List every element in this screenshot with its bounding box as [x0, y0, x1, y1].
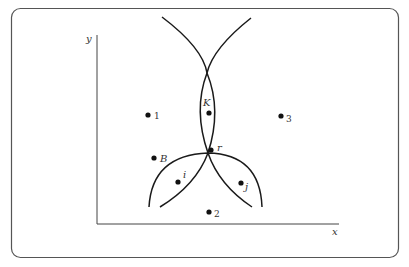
point-j: j: [238, 180, 248, 192]
point-label: K: [202, 97, 211, 108]
point-3: 3: [278, 113, 292, 124]
point-label: 3: [286, 114, 292, 124]
point-1: 1: [145, 111, 159, 121]
point-label: i: [183, 169, 186, 180]
point-label: B: [159, 153, 167, 164]
point-label: 2: [214, 209, 220, 219]
diagram-canvas: y x 1 K 3 B r i j 2: [0, 0, 409, 267]
curve-right-upper: [207, 18, 252, 207]
point-K: K: [202, 97, 212, 116]
point-label: r: [217, 142, 223, 153]
point-dot: [175, 179, 180, 184]
point-i: i: [175, 169, 186, 185]
point-dot: [208, 147, 213, 152]
point-B: B: [151, 153, 167, 164]
point-label: 1: [154, 111, 160, 121]
point-dot: [145, 112, 150, 117]
figure-frame: [12, 9, 399, 258]
point-dot: [151, 155, 156, 160]
point-dot: [206, 110, 211, 115]
x-axis-label: x: [332, 226, 338, 237]
point-dot: [238, 180, 243, 185]
point-dot: [278, 113, 283, 118]
point-label: j: [243, 181, 248, 192]
point-dot: [206, 209, 211, 214]
y-axis-label: y: [85, 33, 92, 44]
point-2: 2: [206, 209, 219, 219]
